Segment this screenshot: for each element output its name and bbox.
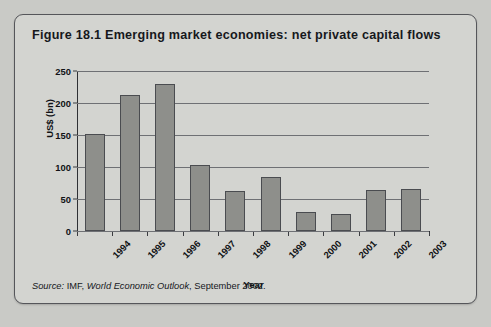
y-tick-label: 0 xyxy=(66,226,71,237)
x-tick-label: 2002 xyxy=(391,238,414,261)
x-tick-mark xyxy=(288,232,289,236)
x-tick-mark xyxy=(359,232,360,236)
x-tick-label: 1996 xyxy=(180,238,203,261)
source-body-post: , September 2002. xyxy=(189,281,266,291)
source-label: Source: xyxy=(32,281,64,291)
bar xyxy=(331,214,351,231)
x-tick-label: 1994 xyxy=(110,238,133,261)
bar-series xyxy=(77,71,429,231)
y-tick-label: 50 xyxy=(61,194,71,205)
x-tick-label: 1998 xyxy=(251,238,274,261)
plot-area: 050100150200250 xyxy=(77,71,429,231)
bar xyxy=(401,189,421,231)
x-tick-mark xyxy=(183,232,184,236)
x-tick-mark xyxy=(323,232,324,236)
x-tick-label: 1995 xyxy=(145,238,168,261)
x-tick-mark xyxy=(394,232,395,236)
chart-area: US$ (bn) 050100150200250 199419951996199… xyxy=(15,51,478,266)
x-tick-label: 1997 xyxy=(215,238,238,261)
x-tick-label: 1999 xyxy=(286,238,309,261)
y-tick-label: 250 xyxy=(55,66,71,77)
y-axis-title: US$ (bn) xyxy=(44,79,55,159)
x-tick-mark xyxy=(147,232,148,236)
bar xyxy=(120,95,140,231)
bar xyxy=(155,84,175,231)
source-publication: World Economic Outlook xyxy=(87,281,189,291)
y-tick-label: 150 xyxy=(55,130,71,141)
y-tick-label: 100 xyxy=(55,162,71,173)
x-tick-mark xyxy=(253,232,254,236)
figure-title: Figure 18.1 Emerging market economies: n… xyxy=(32,28,441,42)
x-tick-label: 2003 xyxy=(427,238,450,261)
bar xyxy=(366,190,386,231)
x-tick-mark xyxy=(218,232,219,236)
x-tick-label: 2000 xyxy=(321,238,344,261)
source-body-pre: IMF, xyxy=(64,281,87,291)
bar xyxy=(261,177,281,231)
bar xyxy=(296,212,316,231)
bar xyxy=(190,165,210,231)
x-tick-mark xyxy=(112,232,113,236)
x-tick-mark xyxy=(429,232,430,236)
bar xyxy=(225,191,245,231)
figure-panel: Figure 18.1 Emerging market economies: n… xyxy=(14,14,477,304)
bar xyxy=(85,134,105,231)
x-tick-mark xyxy=(77,232,78,236)
y-tick-label: 200 xyxy=(55,98,71,109)
x-tick-label: 2001 xyxy=(356,238,379,261)
source-note: Source: IMF, World Economic Outlook, Sep… xyxy=(32,281,266,291)
